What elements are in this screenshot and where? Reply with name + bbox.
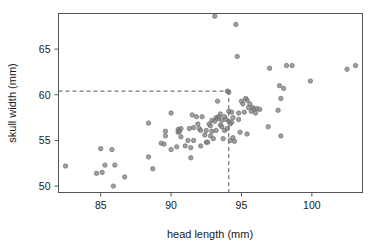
data-point (242, 110, 246, 114)
data-point (189, 156, 193, 160)
data-point (267, 66, 271, 70)
data-point (210, 129, 214, 133)
data-point (111, 184, 115, 188)
data-point (203, 133, 207, 137)
data-point (236, 117, 240, 121)
y-tick-label: 60 (39, 89, 51, 101)
data-point (191, 138, 195, 142)
data-point (200, 115, 204, 119)
data-point (187, 126, 191, 130)
data-point (198, 144, 202, 148)
data-point (169, 111, 173, 115)
data-points (63, 14, 357, 188)
data-point (63, 164, 67, 168)
data-point (229, 120, 233, 124)
data-point (231, 115, 235, 119)
y-axis-tick-labels: 50556065 (39, 43, 51, 192)
data-point (194, 115, 198, 119)
data-point (163, 129, 167, 133)
plot-canvas: 859095100 50556065 head length (mm) skul… (0, 0, 377, 247)
data-point (205, 140, 209, 144)
data-point (308, 79, 312, 83)
data-point (213, 14, 217, 18)
data-point (214, 128, 218, 132)
data-point (113, 163, 117, 167)
data-point (163, 134, 167, 138)
data-point (110, 147, 114, 151)
x-axis-ticks (101, 193, 312, 197)
data-point (179, 135, 183, 139)
data-point (284, 63, 288, 67)
data-point (94, 171, 98, 175)
x-tick-label: 100 (303, 199, 321, 211)
data-point (345, 67, 349, 71)
data-point (258, 107, 262, 111)
y-axis-label: skull width (mm) (6, 63, 18, 142)
data-point (218, 112, 222, 116)
data-point (183, 144, 187, 148)
data-point (290, 63, 294, 67)
data-point (179, 126, 183, 130)
data-point (234, 22, 238, 26)
data-point (146, 155, 150, 159)
data-point (241, 102, 245, 106)
data-point (277, 83, 281, 87)
x-axis-tick-labels: 859095100 (95, 199, 321, 211)
data-point (189, 146, 193, 150)
data-point (276, 108, 280, 112)
y-tick-label: 65 (39, 43, 51, 55)
data-point (162, 142, 166, 146)
data-point (215, 99, 219, 103)
data-point (190, 113, 194, 117)
data-point (221, 136, 225, 140)
x-tick-label: 90 (165, 199, 177, 211)
data-point (191, 125, 195, 129)
data-point (208, 124, 212, 128)
reference-crosshair (59, 91, 229, 192)
data-point (100, 170, 104, 174)
data-point (186, 138, 190, 142)
x-tick-label: 95 (236, 199, 248, 211)
data-point (146, 121, 150, 125)
data-point (238, 130, 242, 134)
y-axis-ticks (55, 49, 59, 186)
x-axis-label: head length (mm) (167, 228, 253, 240)
data-point (198, 128, 202, 132)
data-point (122, 175, 126, 179)
x-tick-label: 85 (95, 199, 107, 211)
data-point (196, 122, 200, 126)
data-point (279, 96, 283, 100)
data-point (225, 126, 229, 130)
data-point (279, 134, 283, 138)
data-point (266, 125, 270, 129)
y-tick-label: 55 (39, 134, 51, 146)
data-point (204, 128, 208, 132)
data-point (151, 167, 155, 171)
data-point (236, 111, 240, 115)
data-point (253, 111, 257, 115)
y-tick-label: 50 (39, 180, 51, 192)
data-point (235, 54, 239, 58)
data-point (281, 86, 285, 90)
data-point (353, 63, 357, 67)
data-point (211, 136, 215, 140)
data-point (103, 163, 107, 167)
data-point (229, 110, 233, 114)
data-point (227, 90, 231, 94)
data-point (99, 146, 103, 150)
data-point (245, 132, 249, 136)
data-point (232, 139, 236, 143)
data-point (175, 145, 179, 149)
scatter-plot-figure: 859095100 50556065 head length (mm) skul… (0, 0, 377, 247)
data-point (169, 147, 173, 151)
